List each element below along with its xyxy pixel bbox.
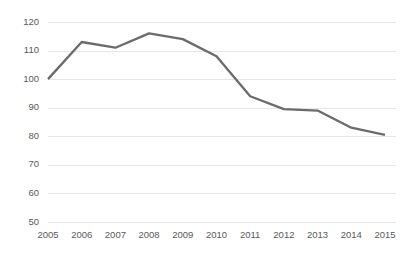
x-tick-label: 2010 bbox=[206, 229, 227, 240]
y-tick-label: 60 bbox=[28, 187, 39, 198]
y-tick-label: 90 bbox=[28, 101, 39, 112]
x-tick-label: 2011 bbox=[240, 229, 260, 240]
y-tick-label: 80 bbox=[28, 130, 39, 141]
x-tick-label: 2008 bbox=[139, 229, 160, 240]
x-tick-label: 2007 bbox=[105, 229, 126, 240]
x-tick-label: 2014 bbox=[341, 229, 362, 240]
x-tick-label: 2006 bbox=[71, 229, 92, 240]
chart-canvas: 5060708090100110120 20052006200720082009… bbox=[0, 0, 413, 260]
chart-background bbox=[0, 0, 413, 260]
x-tick-label: 2013 bbox=[307, 229, 328, 240]
x-tick-label: 2015 bbox=[374, 229, 395, 240]
x-tick-label: 2005 bbox=[37, 229, 58, 240]
x-tick-label: 2009 bbox=[172, 229, 193, 240]
x-axis-tick-labels: 2005200620072008200920102011201220132014… bbox=[37, 229, 395, 240]
y-tick-label: 110 bbox=[24, 44, 39, 55]
y-tick-label: 120 bbox=[23, 16, 39, 27]
y-tick-label: 100 bbox=[23, 73, 39, 84]
y-tick-label: 50 bbox=[28, 216, 39, 227]
y-tick-label: 70 bbox=[28, 158, 39, 169]
line-chart: 5060708090100110120 20052006200720082009… bbox=[0, 0, 413, 260]
x-tick-label: 2012 bbox=[273, 229, 294, 240]
